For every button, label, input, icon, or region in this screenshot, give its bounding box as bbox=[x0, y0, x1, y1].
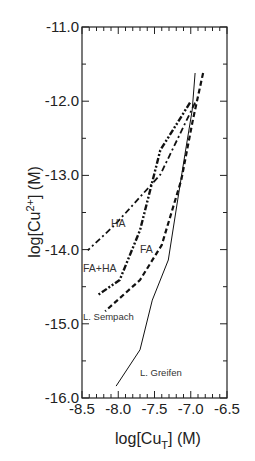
chart: -8.5-8.0-7.5-7.0-6.5-11.0-12.0-13.0-14.0… bbox=[0, 0, 255, 461]
y-tick-label: -13.0 bbox=[45, 166, 79, 183]
x-tick-label: -7.0 bbox=[178, 400, 204, 417]
y-tick-label: -12.0 bbox=[45, 92, 79, 109]
series-l-sempach bbox=[105, 73, 203, 311]
x-tick-label: -7.5 bbox=[142, 400, 168, 417]
y-tick-label: -16.0 bbox=[45, 389, 79, 406]
plot-frame bbox=[82, 27, 227, 398]
series-l-greifen bbox=[116, 73, 195, 386]
annotation-ha: HA bbox=[111, 217, 126, 229]
axis-ticks bbox=[82, 27, 227, 398]
x-axis-title: log[CuT] (M) bbox=[115, 430, 201, 451]
annotation-fa: FA bbox=[140, 243, 153, 255]
y-axis-title: log[Cu2+] (M) bbox=[24, 166, 43, 258]
y-tick-label: -14.0 bbox=[45, 241, 79, 258]
data-series bbox=[88, 73, 203, 386]
y-tick-label: -15.0 bbox=[45, 315, 79, 332]
x-tick-label: -6.5 bbox=[214, 400, 240, 417]
y-tick-label: -11.0 bbox=[46, 18, 79, 35]
x-tick-label: -8.0 bbox=[105, 400, 131, 417]
annotation-fa-ha: FA+HA bbox=[83, 262, 117, 274]
annotation-l-sempach: L. Sempach bbox=[83, 311, 134, 322]
annotation-l-greifen: L. Greifen bbox=[140, 367, 182, 378]
